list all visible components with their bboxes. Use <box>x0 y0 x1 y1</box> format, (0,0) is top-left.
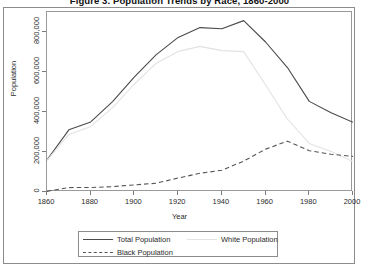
x-tick-mark <box>177 191 178 195</box>
chart-legend: Total PopulationWhite PopulationBlack Po… <box>78 231 278 257</box>
series-line-black-population <box>47 141 353 191</box>
x-tick-label: 1920 <box>160 197 194 206</box>
x-tick-label: 1980 <box>291 197 325 206</box>
legend-line-swatch-icon <box>83 249 113 256</box>
chart-lines <box>47 12 353 192</box>
legend-label: White Population <box>221 235 278 244</box>
series-line-total-population <box>47 21 353 160</box>
x-tick-mark <box>308 191 309 195</box>
plot-area <box>46 11 352 191</box>
legend-label: Black Population <box>117 248 173 257</box>
legend-item-white-population[interactable]: White Population <box>187 233 278 246</box>
figure-title: Figure 3. Population Trends by Race, 186… <box>0 0 359 6</box>
y-tick-label: 800,000 <box>32 5 41 57</box>
x-tick-mark <box>46 191 47 195</box>
legend-label: Total Population <box>117 235 170 244</box>
x-tick-mark <box>90 191 91 195</box>
x-tick-label: 1960 <box>248 197 282 206</box>
x-tick-mark <box>352 191 353 195</box>
legend-line-swatch-icon <box>83 236 113 243</box>
x-tick-mark <box>265 191 266 195</box>
legend-item-black-population[interactable]: Black Population <box>83 246 173 259</box>
x-tick-label: 1880 <box>73 197 107 206</box>
x-tick-label: 2000 <box>335 197 365 206</box>
x-tick-label: 1860 <box>29 197 63 206</box>
x-tick-mark <box>221 191 222 195</box>
legend-line-swatch-icon <box>187 236 217 243</box>
y-axis-title: Population <box>9 49 18 109</box>
x-tick-label: 1900 <box>116 197 150 206</box>
legend-item-total-population[interactable]: Total Population <box>83 233 170 246</box>
x-tick-mark <box>133 191 134 195</box>
x-axis-title: Year <box>0 212 359 221</box>
series-line-white-population <box>47 46 353 161</box>
x-tick-label: 1940 <box>204 197 238 206</box>
